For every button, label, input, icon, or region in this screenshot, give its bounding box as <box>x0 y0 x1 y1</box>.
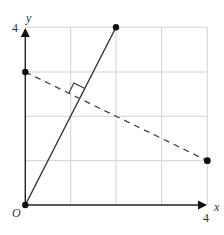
point-2-4 <box>113 24 119 30</box>
x-tick-label: 4 <box>203 211 209 225</box>
y-axis-label: y <box>25 11 32 25</box>
point-4-1 <box>204 157 211 164</box>
x-axis-label: x <box>213 200 220 214</box>
coordinate-diagram: 4 y O 4 x <box>0 0 224 235</box>
y-tick-label: 4 <box>12 21 18 35</box>
point-0-3 <box>22 69 28 75</box>
x-axis-arrow-icon <box>198 201 207 210</box>
y-axis-arrow-icon <box>21 28 30 37</box>
point-origin <box>22 202 28 208</box>
origin-label: O <box>12 206 21 220</box>
axes <box>21 28 207 210</box>
